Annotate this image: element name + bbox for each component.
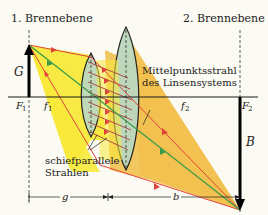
chief-ray-label-1: Mittelpunktsstrahl (142, 65, 237, 76)
chief-ray-label-2: des Linsensystems (142, 77, 237, 88)
focal-plane-1-label: 1. Brennebene (11, 12, 93, 25)
focus-1-sub: 1 (22, 105, 26, 113)
oblique-rays-label-1: schiefparallele (45, 155, 120, 166)
focus-2-sub: 2 (248, 105, 252, 113)
lens-system-diagram: 1. Brennebene 2. Brennebene G B F 1 F 2 … (0, 0, 268, 215)
dim-arrow (103, 195, 108, 199)
oblique-rays-label-2: Strahlen (45, 167, 89, 178)
focal-length-2-sub: 2 (185, 105, 189, 113)
object-distance-label: g (62, 191, 68, 202)
focal-length-1-sub: 1 (48, 105, 52, 113)
image-label: B (245, 135, 255, 149)
focal-plane-2-label: 2. Brennebene (183, 12, 265, 25)
image-distance-label: b (173, 191, 179, 202)
object-label: G (14, 65, 24, 79)
dim-arrow (108, 195, 113, 199)
